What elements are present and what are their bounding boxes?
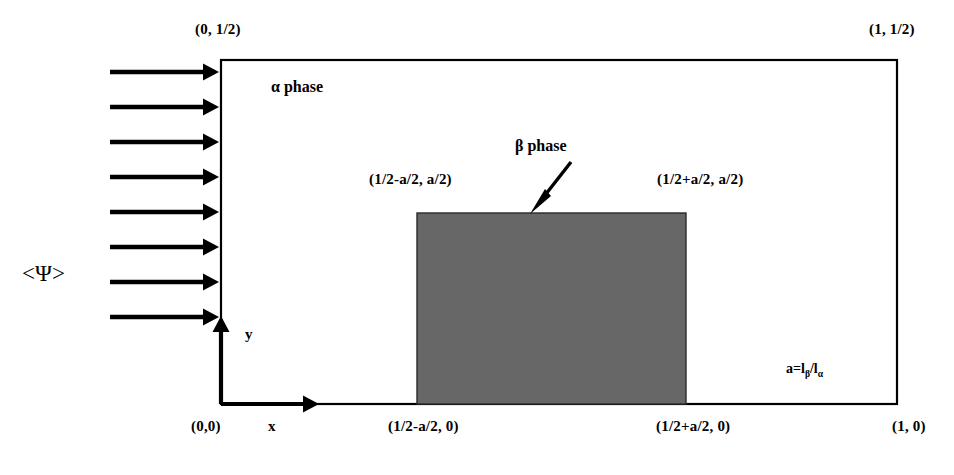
- beta-phase-rect: [417, 213, 686, 404]
- ratio-prefix: a=l: [786, 361, 805, 376]
- figure-canvas: (0, 1/2) (1, 1/2) (0,0) (1, 0) (1/2-a/2,…: [0, 0, 954, 475]
- beta-corner-label-bottom-left: (1/2-a/2, 0): [388, 419, 459, 434]
- beta-phase-pointer-arrow: [530, 162, 571, 214]
- y-axis-label: y: [245, 327, 253, 342]
- inflow-arrow: [110, 64, 219, 81]
- inflow-arrow: [110, 309, 219, 326]
- beta-corner-label-bottom-right: (1/2+a/2, 0): [656, 419, 730, 434]
- beta-corner-label-top-left: (1/2-a/2, a/2): [369, 172, 452, 187]
- corner-label-top-right: (1, 1/2): [869, 22, 915, 37]
- y-axis-arrow: [213, 316, 230, 404]
- inflow-arrow: [110, 169, 219, 186]
- x-axis-arrow: [221, 396, 319, 413]
- ratio-slash: /l: [810, 361, 818, 376]
- inflow-arrow: [110, 99, 219, 116]
- schematic-drawing: [0, 0, 954, 475]
- inflow-arrow: [110, 274, 219, 291]
- inflow-arrow: [110, 134, 219, 151]
- mean-field-psi-label: <Ψ>: [22, 262, 65, 285]
- inflow-arrow-group: [110, 64, 219, 326]
- corner-label-top-left: (0, 1/2): [195, 22, 241, 37]
- corner-label-bottom-right: (1, 0): [892, 419, 926, 434]
- alpha-phase-label: α phase: [271, 79, 323, 95]
- ratio-subscript-alpha: α: [818, 369, 823, 379]
- beta-corner-label-top-right: (1/2+a/2, a/2): [657, 172, 743, 187]
- inflow-arrow: [110, 239, 219, 256]
- corner-label-bottom-left: (0,0): [191, 419, 221, 434]
- x-axis-label: x: [268, 419, 276, 434]
- beta-phase-label: β phase: [515, 138, 567, 154]
- inflow-arrow: [110, 204, 219, 221]
- ratio-definition-label: a=lβ/lα: [786, 362, 823, 376]
